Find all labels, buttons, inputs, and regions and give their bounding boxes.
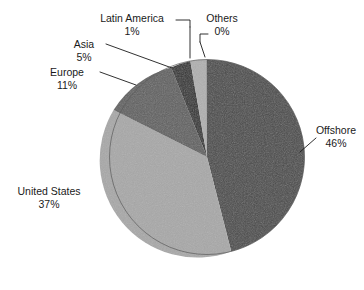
pie-label-europe-percent: 11% (36, 79, 98, 92)
pie-label-united-states-name: United States (17, 185, 80, 197)
pie-label-others-percent: 0% (198, 25, 246, 38)
pie-label-others-name: Others (206, 12, 238, 24)
pie-label-latin-america-percent: 1% (86, 25, 178, 38)
leader-line-latin-america (176, 20, 190, 58)
pie-label-offshore-percent: 46% (310, 137, 362, 150)
pie-label-offshore: Offshore 46% (310, 124, 362, 149)
pie-label-united-states-percent: 37% (8, 198, 90, 211)
pie-chart-figure: Latin America 1% Others 0% Asia 5% Europ… (0, 0, 364, 290)
pie-label-offshore-name: Offshore (316, 124, 356, 136)
pie-label-asia-percent: 5% (60, 51, 108, 64)
pie-label-latin-america-name: Latin America (100, 12, 164, 24)
pie-label-others: Others 0% (198, 12, 246, 37)
pie-label-united-states: United States 37% (8, 185, 90, 210)
pie-label-asia-name: Asia (74, 38, 94, 50)
leader-line-asia (106, 44, 172, 68)
pie-label-asia: Asia 5% (60, 38, 108, 63)
pie-label-europe-name: Europe (50, 66, 84, 78)
leader-line-others (200, 34, 208, 57)
pie-label-latin-america: Latin America 1% (86, 12, 178, 37)
leader-line-europe (100, 72, 136, 85)
pie-label-europe: Europe 11% (36, 66, 98, 91)
